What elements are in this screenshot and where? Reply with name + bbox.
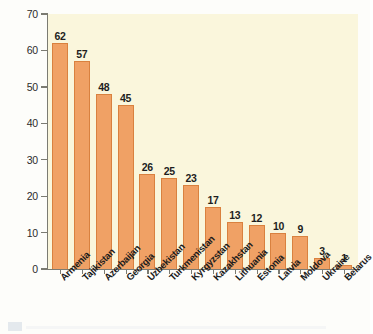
bar-value-label: 17 — [198, 194, 228, 206]
bar-value-label: 57 — [67, 48, 97, 60]
bar[interactable] — [52, 43, 68, 269]
y-axis-tick — [41, 86, 48, 87]
y-axis-tick — [41, 232, 48, 233]
y-axis-tick — [41, 123, 48, 124]
caption-artifact — [8, 322, 22, 331]
bar-value-label: 45 — [111, 92, 141, 104]
y-axis-tick-label: 30 — [27, 154, 38, 166]
y-axis-tick — [41, 196, 48, 197]
bar[interactable] — [96, 94, 112, 269]
y-axis-tick — [41, 50, 48, 51]
y-axis-tick — [41, 268, 48, 269]
y-axis-tick-label: 10 — [27, 227, 38, 239]
y-axis-tick — [41, 159, 48, 160]
bar-value-label: 9 — [285, 223, 315, 235]
y-axis-tick-label: 20 — [27, 190, 38, 202]
y-axis-tick-label: 0 — [32, 263, 38, 275]
y-axis-tick-label: 60 — [27, 44, 38, 56]
bar[interactable] — [74, 61, 90, 269]
caption-rule — [26, 326, 326, 329]
y-axis-tick-label: 50 — [27, 81, 38, 93]
y-axis-tick-label: 40 — [27, 117, 38, 129]
bar-value-label: 62 — [45, 30, 75, 42]
y-axis-tick-label: 70 — [27, 8, 38, 20]
y-axis-tick — [41, 13, 48, 14]
bar-value-label: 23 — [176, 172, 206, 184]
